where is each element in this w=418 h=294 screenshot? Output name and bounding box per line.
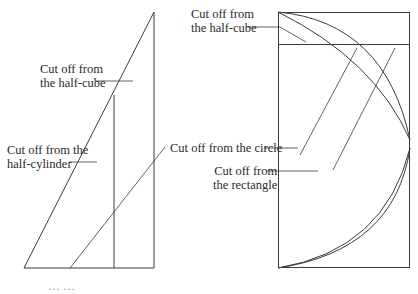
lower-outer-arc <box>278 148 410 268</box>
label-line: Cut off from <box>191 7 257 21</box>
label-line: Cut off from the circle <box>170 141 282 155</box>
left-triangle-figure <box>24 12 165 268</box>
label-circle: Cut off from the circle <box>170 141 282 155</box>
label-rectangle: Cut off from the rectangle <box>213 164 277 192</box>
outer-rectangle <box>279 13 410 268</box>
upper-inner-arc <box>278 12 410 140</box>
label-half-cube-left: Cut off from the half-cube <box>40 62 106 90</box>
label-line: half-cylinder <box>7 157 88 171</box>
right-rectangle-figure <box>247 12 410 268</box>
triangle-hypotenuse <box>24 12 154 268</box>
figure-caption-partial: … … <box>48 279 75 294</box>
label-line: Cut off from the <box>7 143 88 157</box>
label-half-cylinder: Cut off from the half-cylinder <box>7 143 88 171</box>
label-line: the rectangle <box>213 178 277 192</box>
label-line: the half-cube <box>191 21 257 35</box>
cut-line-2 <box>333 48 395 170</box>
label-line: Cut off from <box>40 62 106 76</box>
label-half-cube-right: Cut off from the half-cube <box>191 7 257 35</box>
lower-inner-arc <box>278 148 410 268</box>
label-line: Cut off from <box>213 164 277 178</box>
upper-outer-arc <box>278 12 410 140</box>
label-line: the half-cube <box>40 76 106 90</box>
